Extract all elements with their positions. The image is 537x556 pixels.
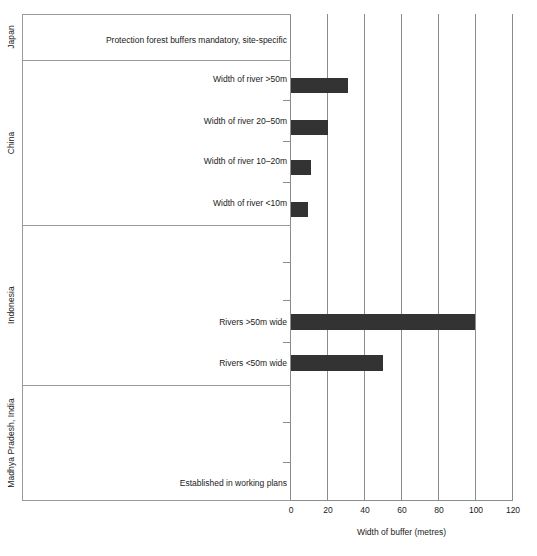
x-axis-title: Width of buffer (metres) [290, 527, 513, 537]
row-label-china-river-10-20: Width of river 10–20m [24, 157, 287, 166]
bar-indonesia-rivers-gt50 [291, 314, 475, 330]
x-tick-label-120: 120 [498, 505, 528, 515]
bar-china-river-gt50 [291, 78, 348, 93]
x-axis-line [290, 500, 513, 501]
gridline-60 [401, 14, 402, 500]
bar-china-river-10-20 [291, 160, 311, 175]
y-tick [283, 262, 290, 263]
country-label-madhya-pradesh-india-text: Madhya Pradesh, India [6, 398, 16, 488]
country-label-japan: Japan [0, 14, 22, 60]
section-rule-japan-china [22, 60, 291, 61]
chart-container: Japan China Indonesia Madhya Pradesh, In… [0, 0, 537, 556]
x-tick-120 [512, 494, 513, 500]
x-tick-label-40: 40 [350, 505, 380, 515]
y-tick [283, 422, 290, 423]
y-tick [283, 462, 290, 463]
x-tick-100 [475, 494, 476, 500]
y-tick [283, 182, 290, 183]
row-label-china-river-lt10: Width of river <10m [24, 199, 287, 208]
section-rule-bottom [22, 500, 291, 501]
section-rule-top [22, 14, 291, 15]
label-column-rule [22, 14, 23, 500]
country-label-indonesia-text: Indonesia [6, 286, 16, 324]
bar-china-river-lt10 [291, 202, 308, 217]
x-tick-label-0: 0 [276, 505, 306, 515]
gridline-120 [512, 14, 513, 500]
bar-china-river-20-50 [291, 120, 328, 135]
bar-indonesia-rivers-lt50 [291, 355, 383, 371]
x-tick-60 [401, 494, 402, 500]
x-tick-label-60: 60 [387, 505, 417, 515]
country-label-madhya-pradesh-india: Madhya Pradesh, India [0, 385, 22, 500]
section-rule-indonesia-india [22, 385, 291, 386]
x-tick-0 [290, 494, 291, 500]
country-label-indonesia: Indonesia [0, 225, 22, 385]
gridline-40 [364, 14, 365, 500]
row-label-india-note: Established in working plans [24, 479, 287, 488]
x-tick-40 [364, 494, 365, 500]
gridline-80 [438, 14, 439, 500]
row-label-china-river-20-50: Width of river 20–50m [24, 117, 287, 126]
gridline-100 [475, 14, 476, 500]
x-tick-20 [327, 494, 328, 500]
plot-area [290, 14, 512, 500]
country-label-china-text: China [6, 131, 16, 154]
row-label-indonesia-rivers-gt50: Rivers >50m wide [24, 318, 287, 327]
y-tick [283, 141, 290, 142]
row-label-china-river-gt50: Width of river >50m [24, 75, 287, 84]
y-tick [283, 100, 290, 101]
x-tick-80 [438, 494, 439, 500]
y-tick [283, 342, 290, 343]
x-tick-label-100: 100 [461, 505, 491, 515]
y-tick [283, 300, 290, 301]
section-rule-china-indonesia [22, 225, 291, 226]
country-label-japan-text: Japan [6, 25, 16, 49]
row-label-japan-note: Protection forest buffers mandatory, sit… [24, 36, 287, 45]
row-label-indonesia-rivers-lt50: Rivers <50m wide [24, 359, 287, 368]
x-tick-label-20: 20 [313, 505, 343, 515]
country-label-china: China [0, 60, 22, 225]
x-tick-label-80: 80 [424, 505, 454, 515]
